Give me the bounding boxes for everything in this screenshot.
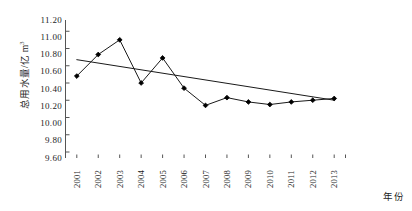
y-axis-tick-label: 11.00 xyxy=(18,33,62,42)
y-axis-tick-label: 10.40 xyxy=(18,85,62,94)
data-series-line xyxy=(77,40,334,106)
y-axis-tick-label: 10.00 xyxy=(18,119,62,128)
x-axis-tick-labels: 2001200220032004200520062007200820092010… xyxy=(65,158,346,192)
x-axis-title: 年份 xyxy=(383,189,404,203)
water-usage-line-chart: 总用水量/亿 m3 11.2011.0010.8010.6010.4010.20… xyxy=(0,0,412,211)
plot-area xyxy=(65,20,346,158)
x-axis-tick-label: 2007 xyxy=(201,164,211,194)
data-point-marker xyxy=(267,102,272,107)
x-axis-tick-label: 2006 xyxy=(179,164,189,194)
x-axis-tick-label: 2005 xyxy=(158,164,168,194)
data-point-marker xyxy=(225,95,230,100)
x-axis-tick-label: 2011 xyxy=(286,164,296,194)
data-point-marker xyxy=(310,98,315,103)
y-axis-tick-label: 9.80 xyxy=(18,136,62,145)
y-axis-tick-labels: 11.2011.0010.8010.6010.4010.2010.009.809… xyxy=(18,14,62,160)
y-axis-tick-label: 10.20 xyxy=(18,102,62,111)
y-axis-tick-label: 11.20 xyxy=(18,16,62,25)
x-axis-tick-label: 2001 xyxy=(72,164,82,194)
y-axis-tick-label: 10.80 xyxy=(18,50,62,59)
x-axis-tick-label: 2002 xyxy=(93,164,103,194)
plot-svg xyxy=(65,20,346,158)
x-axis-tick-label: 2010 xyxy=(265,164,275,194)
x-axis-tick-label: 2008 xyxy=(222,164,232,194)
x-axis-tick-label: 2004 xyxy=(136,164,146,194)
data-point-marker xyxy=(246,100,251,105)
trendline xyxy=(77,60,334,101)
y-axis-tick-label: 9.60 xyxy=(18,154,62,163)
y-axis-tick-label: 10.60 xyxy=(18,67,62,76)
x-axis-tick-label: 2012 xyxy=(308,164,318,194)
data-point-marker xyxy=(289,100,294,105)
x-axis-tick-label: 2013 xyxy=(329,164,339,194)
x-axis-tick-label: 2009 xyxy=(243,164,253,194)
x-axis-tick-label: 2003 xyxy=(115,164,125,194)
